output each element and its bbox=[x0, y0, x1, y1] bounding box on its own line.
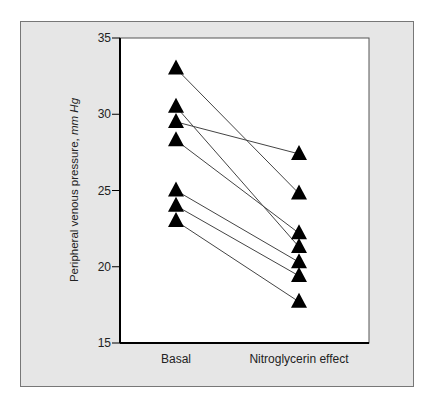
x-category-label: Nitroglycerin effect bbox=[249, 352, 349, 366]
y-axis-label: Peripheral venous pressure, mm Hg bbox=[68, 97, 80, 282]
y-tick-label: 25 bbox=[98, 184, 112, 198]
plot-area bbox=[120, 38, 369, 343]
x-category-label: Basal bbox=[161, 352, 191, 366]
category-labels: BasalNitroglycerin effect bbox=[161, 352, 349, 366]
y-tick-label: 20 bbox=[98, 260, 112, 274]
y-tick-label: 15 bbox=[98, 336, 112, 350]
y-tick-label: 30 bbox=[98, 107, 112, 121]
y-tick-label: 35 bbox=[98, 31, 112, 45]
slope-chart: 1520253035 BasalNitroglycerin effect Per… bbox=[0, 0, 424, 398]
